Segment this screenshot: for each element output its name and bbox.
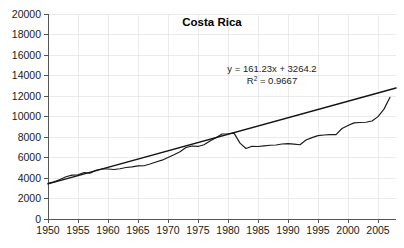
x-axis-tick-label: 1950	[36, 224, 60, 236]
axis-lines	[44, 14, 396, 223]
y-axis-tick-label: 8000	[18, 131, 42, 143]
y-axis-tick-label: 12000	[12, 90, 41, 102]
r-squared-label: R2 = 0.9667	[247, 75, 297, 87]
x-axis-tick-label: 1995	[306, 224, 330, 236]
x-axis-tick-label: 1960	[96, 224, 120, 236]
x-axis-tick-label: 1975	[186, 224, 210, 236]
y-axis-tick-label: 18000	[12, 28, 41, 40]
y-axis-tick-label: 10000	[12, 110, 41, 122]
linear-trend-line	[48, 88, 396, 184]
x-axis-tick-label: 2005	[366, 224, 390, 236]
x-axis-tick-labels: 1950195519601965197019751980198519901995…	[36, 224, 390, 236]
y-axis-tick-labels: 0200040006000800010000120001400016000180…	[12, 8, 41, 225]
y-axis-tick-label: 2000	[18, 192, 42, 204]
grid-lines	[48, 14, 396, 219]
costa-rica-line-chart: 0200040006000800010000120001400016000180…	[0, 0, 404, 248]
r-squared-value: = 0.9667	[257, 75, 297, 86]
x-axis-tick-label: 1980	[216, 224, 240, 236]
x-axis-tick-label: 1955	[66, 224, 90, 236]
y-axis-tick-label: 6000	[18, 151, 42, 163]
x-axis-tick-label: 1965	[126, 224, 150, 236]
x-axis-tick-label: 1985	[246, 224, 270, 236]
chart-title: Costa Rica	[182, 16, 242, 28]
y-axis-tick-label: 14000	[12, 69, 41, 81]
data-series-group	[48, 88, 396, 184]
x-axis-tick-label: 1990	[276, 224, 300, 236]
x-axis-tick-label: 2000	[336, 224, 360, 236]
x-axis-tick-label: 1970	[156, 224, 180, 236]
y-axis-tick-label: 4000	[18, 172, 42, 184]
y-axis-tick-label: 0	[35, 213, 41, 225]
y-axis-tick-label: 20000	[12, 8, 41, 20]
trendline-equation-label: y = 161.23x + 3264.2	[227, 63, 316, 74]
y-axis-tick-label: 16000	[12, 49, 41, 61]
chart-container: 0200040006000800010000120001400016000180…	[0, 0, 404, 248]
